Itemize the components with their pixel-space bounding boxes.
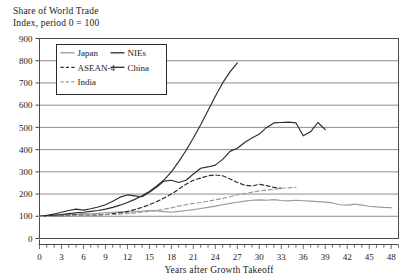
y-axis-tick-label: 800	[19, 56, 33, 66]
x-axis-tick-label: 48	[387, 252, 397, 262]
y-axis-tick-label: 100	[19, 211, 33, 221]
y-axis-tick-label: 600	[19, 100, 33, 110]
x-axis-tick-label: 39	[321, 252, 331, 262]
x-axis-tick-label: 0	[37, 252, 42, 262]
x-axis-title: Years after Growth Takeoff	[164, 265, 274, 275]
y-axis-tick-label: 0	[28, 234, 33, 244]
x-axis-tick-label: 33	[277, 252, 287, 262]
x-axis-tick-label: 45	[365, 252, 375, 262]
x-axis-tick-label: 9	[103, 252, 108, 262]
y-axis-tick-label: 700	[19, 78, 33, 88]
x-axis-tick-label: 12	[123, 252, 132, 262]
y-axis-tick-label: 900	[19, 34, 33, 44]
x-axis-tick-label: 27	[233, 252, 243, 262]
legend-label-nies: NIEs	[128, 48, 147, 58]
x-axis-tick-label: 3	[59, 252, 64, 262]
y-axis-tick-label: 500	[19, 123, 33, 133]
y-axis-tick-label: 300	[19, 167, 33, 177]
y-axis-tick-label: 200	[19, 189, 33, 199]
legend-label-india: India	[78, 77, 97, 87]
x-axis-tick-label: 15	[145, 252, 155, 262]
plot-area: 0100200300400500600700800900036912151821…	[0, 0, 413, 280]
x-axis-tick-label: 21	[189, 252, 198, 262]
x-axis-tick-label: 18	[167, 252, 177, 262]
x-axis-tick-label: 36	[299, 252, 309, 262]
legend-label-asean-4: ASEAN-4	[78, 63, 116, 73]
series-line-nies	[40, 122, 326, 216]
x-axis-tick-label: 24	[211, 252, 221, 262]
x-axis-tick-label: 42	[343, 252, 352, 262]
legend-label-japan: Japan	[78, 48, 99, 58]
x-axis-tick-label: 30	[255, 252, 265, 262]
legend-label-china: China	[128, 63, 150, 73]
chart-root: Share of World Trade Index, period 0 = 1…	[0, 0, 413, 280]
x-axis-tick-label: 6	[81, 252, 86, 262]
y-axis-tick-label: 400	[19, 145, 33, 155]
line-chart-svg: 0100200300400500600700800900036912151821…	[0, 0, 413, 280]
